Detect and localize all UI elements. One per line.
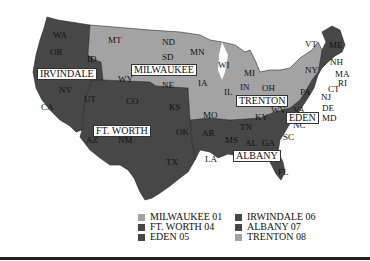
svg-text:MO: MO [203, 110, 218, 120]
legend-swatch-dark [235, 224, 242, 231]
svg-text:PA: PA [300, 87, 311, 97]
region-label-trenton: TRENTON [236, 95, 288, 107]
svg-text:OH: OH [262, 83, 275, 93]
svg-text:MS: MS [225, 135, 238, 145]
svg-text:ID: ID [87, 54, 97, 64]
svg-text:UT: UT [84, 94, 96, 104]
svg-text:IN: IN [240, 82, 250, 92]
legend-swatch-dark [235, 214, 242, 221]
svg-text:NY: NY [305, 65, 318, 75]
svg-text:OK: OK [176, 127, 189, 137]
legend-column-left: MILWAUKEE 01 FT. WORTH 04 EDEN 05 [138, 212, 222, 242]
region-label-ft-worth: FT. WORTH [93, 125, 151, 137]
svg-text:NJ: NJ [321, 92, 331, 102]
svg-text:ND: ND [162, 37, 175, 47]
svg-text:OR: OR [50, 47, 63, 57]
region-label-albany: ALBANY [233, 150, 281, 162]
legend-item-trenton: TRENTON 08 [235, 232, 316, 242]
svg-text:FL: FL [278, 167, 289, 177]
svg-text:WA: WA [53, 30, 67, 40]
region-label-milwaukee: MILWAUKEE [131, 64, 197, 76]
svg-text:SD: SD [162, 52, 174, 62]
legend-item-eden: EDEN 05 [138, 232, 222, 242]
svg-text:IL: IL [224, 87, 233, 97]
svg-text:KS: KS [169, 102, 181, 112]
svg-text:MI: MI [244, 68, 255, 78]
legend-label: EDEN 05 [150, 232, 189, 242]
svg-text:KY: KY [255, 112, 268, 122]
svg-text:NV: NV [59, 85, 72, 95]
svg-text:NH: NH [330, 57, 343, 67]
legend-swatch-light [235, 234, 242, 241]
svg-text:DE: DE [322, 103, 334, 113]
svg-text:NE: NE [162, 80, 174, 90]
svg-text:SC: SC [283, 132, 294, 142]
region-label-eden: EDEN [286, 112, 319, 124]
svg-text:MT: MT [108, 35, 122, 45]
us-map: WAORID CANVUT AZMTWY CONMND SDNEKS OKTXM… [0, 0, 370, 215]
svg-text:IA: IA [198, 78, 208, 88]
svg-text:GA: GA [262, 138, 275, 148]
territory-map-figure: WAORID CANVUT AZMTWY CONMND SDNEKS OKTXM… [0, 0, 370, 261]
legend-swatch-dark [138, 224, 145, 231]
region-label-irvindale: IRVINDALE [37, 68, 97, 80]
svg-text:AR: AR [202, 128, 215, 138]
svg-text:WI: WI [218, 60, 230, 70]
bottom-divider [0, 257, 370, 260]
svg-text:MD: MD [322, 113, 337, 123]
legend-column-right: IRWINDALE 06 ALBANY 07 TRENTON 08 [235, 212, 316, 242]
legend-swatch-light [138, 214, 145, 221]
svg-text:TX: TX [166, 157, 178, 167]
svg-text:CO: CO [126, 96, 139, 106]
legend-swatch-dark [138, 234, 145, 241]
svg-text:MN: MN [190, 47, 205, 57]
svg-text:CA: CA [41, 102, 54, 112]
svg-text:ME: ME [329, 40, 343, 50]
svg-text:VT: VT [305, 39, 317, 49]
legend-label: TRENTON 08 [247, 232, 306, 242]
svg-text:TN: TN [240, 122, 252, 132]
svg-text:LA: LA [205, 154, 217, 164]
svg-text:AL: AL [245, 138, 257, 148]
